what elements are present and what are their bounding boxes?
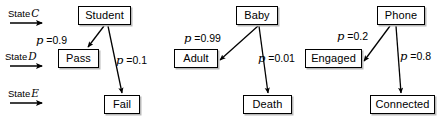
probability-symbol: p [258,51,265,65]
state-node-label: Phone [385,10,417,21]
transition-arrow-student-pass [88,26,104,47]
state-node-student[interactable]: Student [78,6,131,25]
state-node-engaged[interactable]: Engaged [305,49,362,68]
state-node-label: Death [253,99,283,110]
probability-label-baby-adult: p =0.99 [184,33,221,45]
state-node-death[interactable]: Death [243,95,292,114]
state-label-text: State [5,51,27,62]
state-node-label: Pass [66,53,91,64]
state-node-connected[interactable]: Connected [370,95,435,114]
state-node-fail[interactable]: Fail [104,95,140,114]
state-label-symbol: C [30,7,39,19]
transition-arrow-baby-adult [220,26,258,60]
state-node-label: Connected [375,99,429,110]
probability-label-student-pass: p =0.9 [36,35,67,47]
state-node-label: Adult [183,53,209,64]
probability-value: 0.99 [200,32,220,44]
probability-symbol: p [184,31,191,45]
state-node-pass[interactable]: Pass [58,49,99,68]
state-transition-diagram: StateCStateDStateE StudentPassFailBabyAd… [0,0,440,121]
state-node-label: Baby [244,10,269,21]
state-node-label: Student [85,10,124,21]
state-node-phone[interactable]: Phone [377,6,425,25]
probability-label-baby-death: p =0.01 [258,53,295,65]
probability-symbol: p [36,33,43,47]
state-label-text: State [8,8,30,19]
probability-symbol: p [337,29,344,43]
probability-symbol: p [400,49,407,63]
probability-label-phone-connected: p =0.8 [400,51,431,63]
probability-label-phone-engaged: p =0.2 [337,31,368,43]
probability-symbol: p [116,53,123,67]
state-label-symbol: D [27,50,36,62]
state-label-d: StateD [5,51,37,62]
state-node-label: Engaged [311,53,356,64]
state-node-adult[interactable]: Adult [174,49,218,68]
state-label-c: StateC [8,8,39,19]
state-node-label: Fail [113,99,131,110]
probability-value: 0.1 [132,54,147,66]
probability-value: 0.8 [416,50,431,62]
state-label-e: StateE [8,88,39,99]
state-label-text: State [8,88,30,99]
probability-value: 0.2 [353,30,368,42]
probability-label-student-fail: p =0.1 [116,55,147,67]
state-label-symbol: E [30,87,39,99]
probability-value: 0.01 [274,52,294,64]
state-node-baby[interactable]: Baby [236,6,278,25]
probability-value: 0.9 [52,34,67,46]
